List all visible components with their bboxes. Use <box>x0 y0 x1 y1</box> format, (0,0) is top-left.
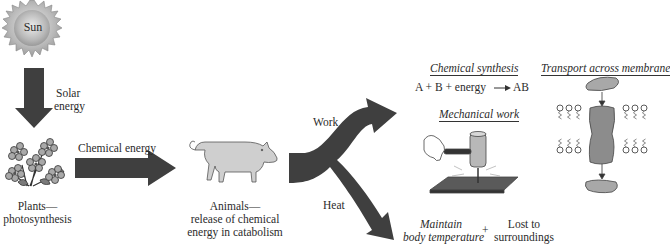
chemical-energy-arrow <box>75 150 176 186</box>
plants-label-line1: Plants— <box>0 200 75 213</box>
work-label: Work <box>313 116 338 129</box>
hammer-nail-icon <box>424 132 518 194</box>
plants-label-line2: photosynthesis <box>0 213 75 226</box>
chemical-energy-label: Chemical energy <box>78 142 156 155</box>
animals-label-line2: release of chemical <box>180 213 290 226</box>
animals-label-line1: Animals— <box>180 200 290 213</box>
sun-label: Sun <box>16 21 50 34</box>
plants-label: Plants— photosynthesis <box>0 200 75 226</box>
lost-line2: surroundings <box>491 231 557 244</box>
work-heat-branch-arrow <box>289 98 397 240</box>
chemical-synthesis-equation-right: AB <box>513 81 529 94</box>
animals-label: Animals— release of chemical energy in c… <box>180 200 290 239</box>
plus-sign: + <box>482 224 489 237</box>
lost-to-surroundings-label: Lost to surroundings <box>491 218 557 244</box>
transport-title: Transport across membrane <box>541 62 670 75</box>
maintain-line2: body temperature <box>403 231 479 244</box>
plants-icon <box>6 139 65 187</box>
transport-title-text: Transport across membrane <box>541 62 670 76</box>
heat-label: Heat <box>323 199 345 212</box>
maintain-body-temperature-label: Maintain body temperature <box>403 218 479 244</box>
reaction-arrow-icon <box>494 85 511 91</box>
maintain-line1: Maintain <box>403 218 479 231</box>
animals-label-line3: energy in catabolism <box>180 226 290 239</box>
solar-energy-label-line1: Solar <box>54 87 85 100</box>
chemical-synthesis-equation-left: A + B + energy <box>415 81 486 94</box>
chemical-synthesis-title: Chemical synthesis <box>430 62 518 75</box>
solar-energy-label-line2: energy <box>54 100 85 113</box>
solar-energy-label: Solar energy <box>54 87 85 113</box>
membrane-transport-icon <box>557 77 647 192</box>
chemical-synthesis-title-text: Chemical synthesis <box>430 62 518 76</box>
mechanical-work-title-text: Mechanical work <box>439 108 519 122</box>
lost-line1: Lost to <box>491 218 557 231</box>
pig-icon <box>190 141 278 182</box>
mechanical-work-title: Mechanical work <box>439 108 519 121</box>
solar-energy-arrow <box>15 68 53 128</box>
